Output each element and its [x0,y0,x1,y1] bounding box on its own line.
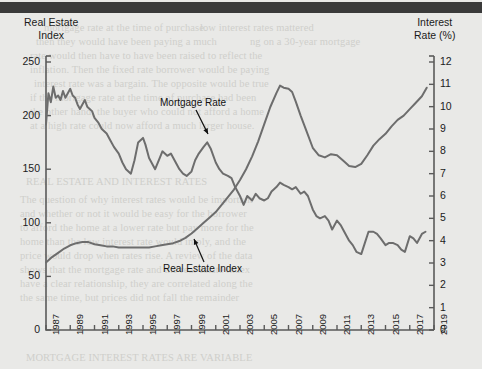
x-axis-tick-label: 1989 [74,314,85,335]
x-axis-tick-label: 2003 [244,314,255,335]
x-axis-tick-label: 1997 [171,314,182,335]
annotation-arrow-mortgage-rate [196,110,208,134]
chart-canvas: Real Estate Index Interest Rate (%) 0501… [0,0,482,369]
x-axis-tick-label: 1999 [196,314,207,335]
figure-container: mortgage rate at the time of purchase.lo… [0,0,482,369]
right-axis-tick-label: 1 [440,301,446,313]
right-axis-tick-label: 5 [440,211,446,223]
right-axis-tick-label: 12 [440,55,452,67]
x-axis-tick-label: 2005 [268,314,279,335]
x-axis-tick-label: 2001 [220,314,231,335]
x-axis-tick-label: 1987 [50,314,61,335]
series-line-real-estate-index [46,86,427,263]
right-axis-tick-label: 2 [440,278,446,290]
left-axis-spine [46,56,434,330]
x-axis-tick-label: 2019 [438,314,449,335]
x-axis-tick-label: 1993 [123,314,134,335]
plot-svg [0,0,482,369]
x-axis-tick-label: 2013 [365,314,376,335]
x-axis-tick-label: 1995 [147,314,158,335]
right-axis-tick-label: 3 [440,256,446,268]
right-axis-tick-label: 7 [440,167,446,179]
x-axis-tick-label: 2009 [317,314,328,335]
left-axis-tick-label: 200 [8,109,40,121]
right-axis-tick-label: 9 [440,122,446,134]
page-top-band [0,2,482,13]
x-axis-tick-label: 2011 [341,315,352,335]
series-line-mortgage-rate [46,87,426,255]
x-axis-tick-label: 1991 [99,314,110,335]
right-axis-tick-label: 11 [440,77,451,89]
left-axis-tick-label: 0 [8,323,40,335]
left-axis-tick-label: 50 [8,269,40,281]
annotation-mortgage-rate: Mortgage Rate [160,97,226,108]
right-axis-tick-label: 10 [440,100,452,112]
right-axis-tick-label: 8 [440,144,446,156]
annotation-arrow-real-estate-index [194,239,204,262]
right-axis-tick-label: 4 [440,234,446,246]
annotation-real-estate-index: Real Estate Index [163,263,242,274]
right-axis-tick-label: 6 [440,189,446,201]
left-axis-tick-label: 150 [8,162,40,174]
x-axis-tick-label: 2017 [414,314,425,335]
x-axis-tick-label: 2007 [293,314,304,335]
x-axis-tick-label: 2015 [390,314,401,335]
left-axis-tick-label: 250 [8,55,40,67]
left-axis-tick-label: 100 [8,216,40,228]
